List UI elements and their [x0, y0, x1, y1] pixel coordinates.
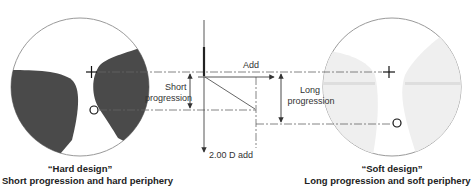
power-profile-graph [198, 20, 274, 152]
hard-design-lens [0, 18, 160, 160]
soft-design-subtitle: Long progression and soft periphery [300, 175, 475, 187]
short-progression-label-line2: progression [145, 93, 185, 103]
left-peripheral-zone [0, 70, 78, 160]
add-label: Add [243, 60, 259, 70]
hard-design-title: “Hard design” [0, 163, 160, 175]
long-progression-label-line2: progression [286, 96, 336, 106]
near-reference-circle-icon [90, 106, 98, 114]
near-reference-circle-icon [393, 119, 401, 127]
add-value-label: 2.00 D add [209, 150, 253, 160]
soft-design-lens [320, 18, 465, 160]
short-progression-label-line1: Short [165, 82, 185, 92]
hard-design-subtitle: Short progression and hard periphery [0, 175, 175, 187]
progression-slope [205, 77, 255, 109]
soft-design-title: “Soft design” [312, 163, 472, 175]
long-progression-label-line1: Long [295, 85, 325, 95]
